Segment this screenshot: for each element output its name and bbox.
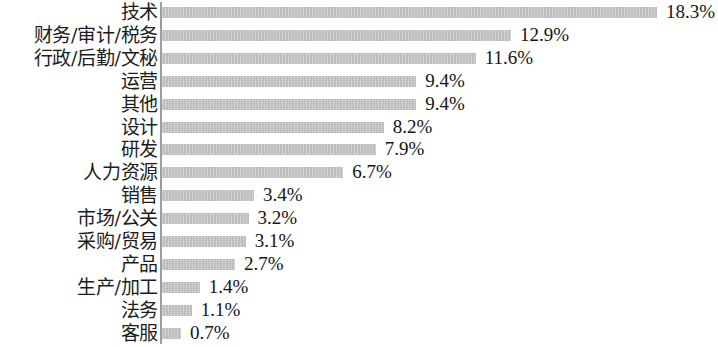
bar <box>162 53 476 64</box>
bar-track: 3.2% <box>162 207 718 230</box>
category-label: 行政/后勤/文秘 <box>0 47 158 70</box>
bar-row: 行政/后勤/文秘11.6% <box>0 47 718 70</box>
bar-value-label: 3.2% <box>258 207 298 230</box>
bar-value-label: 18.3% <box>666 1 715 24</box>
category-label: 采购/贸易 <box>0 230 158 253</box>
bar-track: 0.7% <box>162 322 718 345</box>
bar-track: 9.4% <box>162 70 718 93</box>
bar-value-label: 11.6% <box>485 47 533 70</box>
category-label: 技术 <box>0 1 158 24</box>
bar-value-label: 3.1% <box>255 230 295 253</box>
bar <box>162 282 200 293</box>
bar-track: 3.4% <box>162 184 718 207</box>
bar <box>162 213 249 224</box>
bar-row: 产品2.7% <box>0 253 718 276</box>
bar-row: 设计8.2% <box>0 116 718 139</box>
bar <box>162 144 376 155</box>
bar <box>162 190 254 201</box>
category-label: 运营 <box>0 70 158 93</box>
bar <box>162 167 343 178</box>
bar-value-label: 0.7% <box>190 322 230 345</box>
bar <box>162 305 192 316</box>
bar-value-label: 7.9% <box>385 138 425 161</box>
category-label: 研发 <box>0 138 158 161</box>
bar-row: 生产/加工1.4% <box>0 276 718 299</box>
bar-value-label: 8.2% <box>393 116 433 139</box>
category-label: 生产/加工 <box>0 276 158 299</box>
bar-row: 客服0.7% <box>0 322 718 345</box>
bar-value-label: 9.4% <box>425 70 465 93</box>
bar-row: 技术18.3% <box>0 1 718 24</box>
category-label: 客服 <box>0 322 158 345</box>
bar-rows-container: 技术18.3%财务/审计/税务12.9%行政/后勤/文秘11.6%运营9.4%其… <box>0 0 718 347</box>
bar <box>162 236 246 247</box>
bar-value-label: 9.4% <box>425 93 465 116</box>
category-label: 其他 <box>0 93 158 116</box>
bar-row: 人力资源6.7% <box>0 161 718 184</box>
bar-value-label: 2.7% <box>244 253 284 276</box>
bar-track: 12.9% <box>162 24 718 47</box>
plot-area: 技术18.3%财务/审计/税务12.9%行政/后勤/文秘11.6%运营9.4%其… <box>0 0 718 347</box>
bar-row: 财务/审计/税务12.9% <box>0 24 718 47</box>
bar-row: 其他9.4% <box>0 93 718 116</box>
bar-value-label: 1.1% <box>201 299 241 322</box>
bar-track: 2.7% <box>162 253 718 276</box>
bar-row: 研发7.9% <box>0 138 718 161</box>
bar-value-label: 6.7% <box>352 161 392 184</box>
bar <box>162 122 384 133</box>
bar-row: 法务1.1% <box>0 299 718 322</box>
bar-track: 3.1% <box>162 230 718 253</box>
category-label: 法务 <box>0 299 158 322</box>
category-label: 设计 <box>0 116 158 139</box>
category-label: 产品 <box>0 253 158 276</box>
bar-value-label: 1.4% <box>209 276 249 299</box>
bar-row: 销售3.4% <box>0 184 718 207</box>
horizontal-bar-chart: 技术18.3%财务/审计/税务12.9%行政/后勤/文秘11.6%运营9.4%其… <box>0 0 718 347</box>
bar-track: 9.4% <box>162 93 718 116</box>
bar <box>162 259 235 270</box>
bar <box>162 76 416 87</box>
bar-track: 1.1% <box>162 299 718 322</box>
bar-track: 8.2% <box>162 116 718 139</box>
bar-row: 运营9.4% <box>0 70 718 93</box>
bar <box>162 99 416 110</box>
bar-track: 1.4% <box>162 276 718 299</box>
category-label: 销售 <box>0 184 158 207</box>
bar-row: 市场/公关3.2% <box>0 207 718 230</box>
category-label: 人力资源 <box>0 161 158 184</box>
bar <box>162 30 511 41</box>
bar-track: 18.3% <box>162 1 718 24</box>
bar-value-label: 12.9% <box>520 24 569 47</box>
bar-track: 11.6% <box>162 47 718 70</box>
bar-value-label: 3.4% <box>263 184 303 207</box>
bar-track: 7.9% <box>162 138 718 161</box>
bar <box>162 7 657 18</box>
category-label: 财务/审计/税务 <box>0 24 158 47</box>
bar-row: 采购/贸易3.1% <box>0 230 718 253</box>
bar <box>162 328 181 339</box>
bar-track: 6.7% <box>162 161 718 184</box>
category-label: 市场/公关 <box>0 207 158 230</box>
